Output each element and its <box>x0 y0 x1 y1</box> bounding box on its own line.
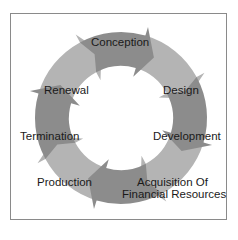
stage-label-acquisition-line2: Financial Resources <box>122 188 226 200</box>
stage-label-development: Development <box>153 130 221 142</box>
stage-label-design: Design <box>163 84 199 96</box>
stage-label-production: Production <box>37 176 92 188</box>
stage-label-conception: Conception <box>91 36 149 48</box>
stage-label-termination: Termination <box>20 130 79 142</box>
stage-label-renewal: Renewal <box>44 84 89 96</box>
stage-label-acquisition-line1: Acquisition Of <box>137 176 208 188</box>
